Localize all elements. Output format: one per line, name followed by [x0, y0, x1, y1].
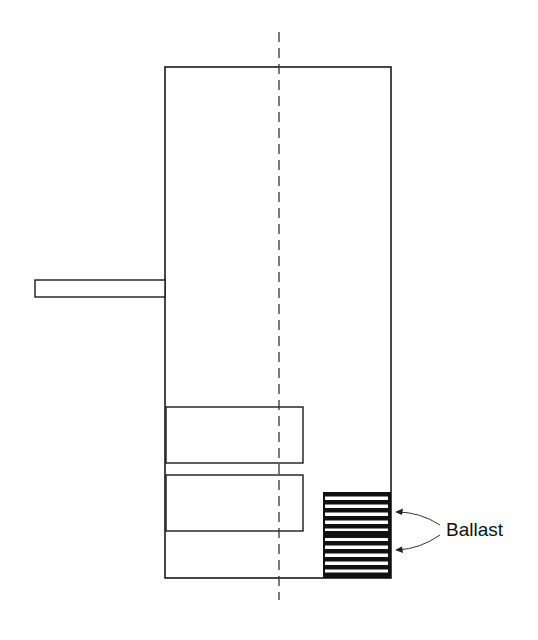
- side-pipe: [35, 280, 165, 297]
- lower-compartment: [166, 475, 303, 531]
- ballast-block: [323, 492, 391, 578]
- ballast-label: Ballast: [446, 519, 503, 541]
- ballast-callout-arrows: [397, 512, 440, 550]
- arrowhead-icons: [395, 509, 403, 554]
- upper-compartment: [166, 407, 303, 463]
- diagram-canvas: [0, 0, 538, 640]
